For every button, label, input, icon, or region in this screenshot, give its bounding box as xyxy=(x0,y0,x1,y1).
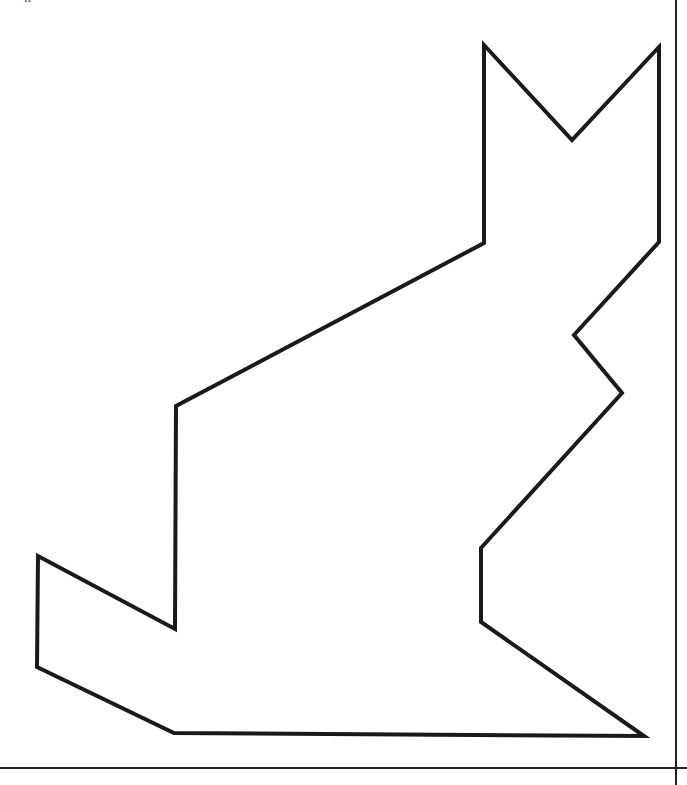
cat-tangram-svg xyxy=(0,0,687,785)
cut-off-text: .. xyxy=(24,0,31,6)
cat-outline xyxy=(37,45,659,736)
diagram-canvas: .. xyxy=(0,0,687,785)
